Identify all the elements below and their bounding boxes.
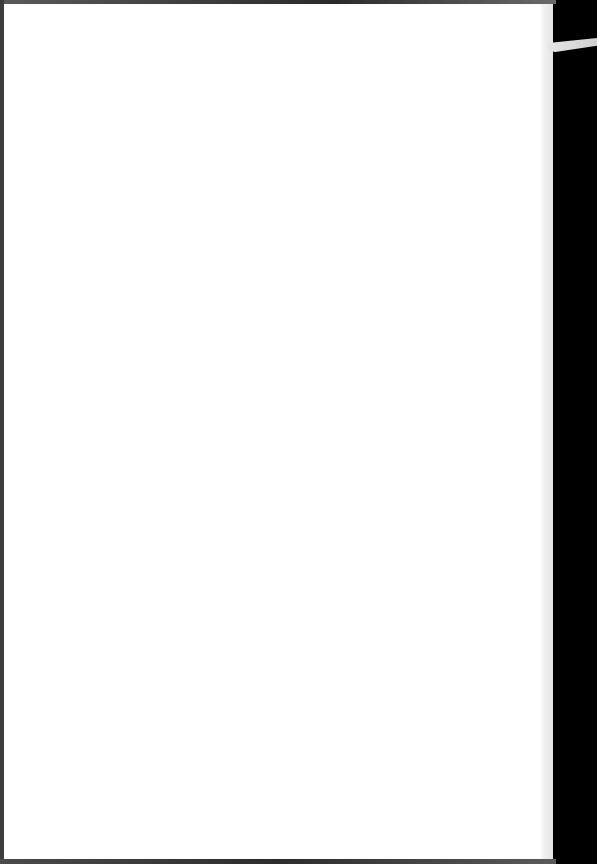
paper-right-edge bbox=[543, 4, 553, 859]
dark-background-band bbox=[553, 0, 597, 864]
photo-scene bbox=[0, 0, 597, 864]
bottom-shadow-edge bbox=[0, 859, 556, 864]
blank-paper-sheet bbox=[4, 4, 547, 859]
